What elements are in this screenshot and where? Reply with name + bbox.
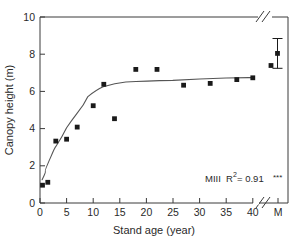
data-point (275, 51, 280, 56)
data-point (155, 67, 160, 72)
x-axis-tick-labels: 0 5 10 15 20 25 30 35 40 M (37, 206, 282, 218)
data-point (53, 139, 58, 144)
x-tick-label-mature: M (274, 206, 283, 218)
x-tick-label-15: 15 (114, 206, 126, 218)
data-point (75, 125, 80, 130)
y-tick-label-0: 0 (29, 197, 35, 209)
data-point (269, 63, 274, 68)
chart-figure: 0 2 4 6 8 10 0 5 10 15 20 25 (0, 0, 308, 241)
fitted-curve (42, 78, 253, 180)
data-point (234, 77, 239, 82)
data-point (101, 82, 106, 87)
y-tick-label-10: 10 (23, 11, 35, 23)
x-tick-label-25: 25 (167, 206, 179, 218)
r-squared-annotation: MIII R 2 = 0.91 *** (205, 171, 282, 184)
data-point (91, 103, 96, 108)
x-tick-label-0: 0 (37, 206, 43, 218)
x-tick-label-40: 40 (247, 206, 259, 218)
y-tick-label-4: 4 (29, 122, 35, 134)
x-tick-label-10: 10 (87, 206, 99, 218)
annotation-value: = 0.91 (237, 173, 264, 184)
y-tick-label-8: 8 (29, 48, 35, 60)
data-point (133, 67, 138, 72)
x-axis-ticks (40, 198, 278, 203)
x-tick-label-5: 5 (64, 206, 70, 218)
x-axis-title: Stand age (year) (113, 224, 195, 236)
y-axis-title: Canopy height (m) (3, 65, 15, 156)
data-points-mature (269, 39, 283, 69)
data-point (40, 183, 45, 188)
y-tick-label-2: 2 (29, 159, 35, 171)
data-point (250, 75, 255, 80)
data-point (112, 116, 117, 121)
annotation-stat: R (226, 173, 233, 184)
data-point (181, 83, 186, 88)
y-tick-label-6: 6 (29, 85, 35, 97)
x-tick-label-20: 20 (141, 206, 153, 218)
x-tick-label-30: 30 (194, 206, 206, 218)
canopy-height-scatter-chart: 0 2 4 6 8 10 0 5 10 15 20 25 (0, 0, 308, 241)
data-point (45, 180, 50, 185)
data-point (64, 137, 69, 142)
annotation-model: MIII (205, 173, 221, 184)
data-points-chronosequence (40, 67, 255, 188)
y-axis-tick-labels: 0 2 4 6 8 10 (23, 11, 35, 209)
x-tick-label-35: 35 (220, 206, 232, 218)
data-point (208, 81, 213, 86)
annotation-significance: *** (273, 173, 282, 182)
